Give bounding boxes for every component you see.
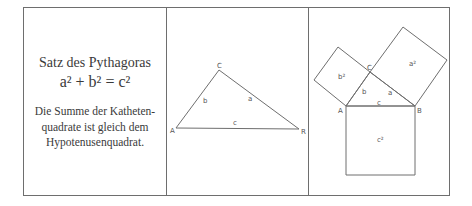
triangle-labels: A R C a b c bbox=[170, 62, 306, 136]
triangle-vertex-a: A bbox=[170, 127, 175, 135]
square-b-label: b² bbox=[338, 73, 345, 81]
triangle-vertex-b: R bbox=[301, 128, 306, 136]
squares-vertex-c: C bbox=[367, 64, 372, 72]
square-c-label: c² bbox=[377, 136, 384, 144]
squares-side-b: b bbox=[362, 88, 367, 96]
squares-vertex-a: A bbox=[338, 107, 343, 115]
right-triangle bbox=[176, 70, 299, 129]
triangle-vertex-c: C bbox=[217, 62, 222, 70]
diagram-canvas: A R C a b c A B C a b c a² b² c² bbox=[0, 0, 472, 206]
triangle-diagram bbox=[176, 70, 299, 129]
squares-vertex-b: B bbox=[417, 107, 422, 115]
squares-side-a: a bbox=[388, 89, 392, 97]
triangle-side-a: a bbox=[248, 95, 252, 103]
squares-side-c: c bbox=[377, 99, 381, 107]
triangle-side-b: b bbox=[203, 97, 208, 105]
square-a-label: a² bbox=[409, 60, 416, 68]
triangle-side-c: c bbox=[233, 119, 237, 127]
